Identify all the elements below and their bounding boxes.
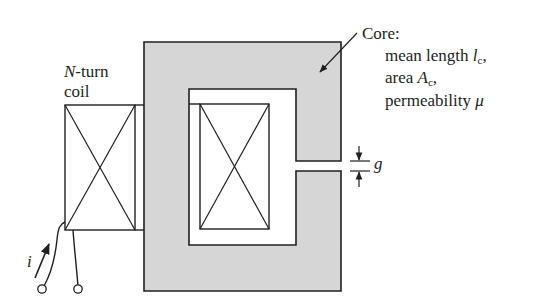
coil-leads [38,222,82,293]
coil-word: coil [64,82,90,101]
gap-dimension [350,146,370,187]
permeability-symbol: μ [475,91,484,110]
current-arrow-icon [35,244,49,278]
n-turn-coil [65,105,144,230]
core-mean-length: mean length lc, [385,46,487,66]
terminal-left [38,285,46,293]
mean-length-punct: , [482,46,486,65]
area-punct: , [433,68,437,87]
coil-n-suffix: -turn [75,62,108,81]
terminal-right [74,285,82,293]
core-title: Core: [362,24,400,44]
gap-symbol: g [374,154,383,173]
current-symbol: i [27,252,32,271]
current-label: i [27,252,32,272]
gap-label: g [374,154,383,174]
area-text: area [385,68,418,87]
core-area: area Ac, [385,68,437,88]
inner-coil-section [189,104,269,229]
core-title-text: Core: [362,24,400,43]
mean-length-text: mean length [385,46,473,65]
area-symbol: A [418,68,428,87]
coil-label-line2: coil [64,82,90,102]
permeability-text: permeability [385,91,475,110]
coil-label: N-turn [64,62,108,82]
core-permeability: permeability μ [385,91,484,111]
coil-n-symbol: N [64,62,75,81]
